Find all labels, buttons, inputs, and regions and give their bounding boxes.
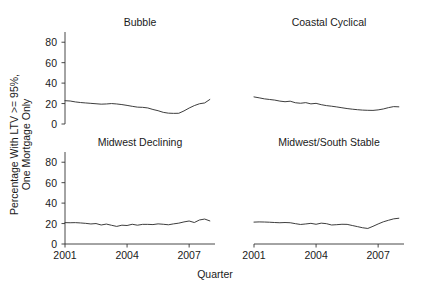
data-series-line xyxy=(65,99,210,113)
plot-area xyxy=(254,32,404,124)
y-tick-label: 60 xyxy=(25,178,57,189)
y-tick-label: 20 xyxy=(25,99,57,110)
y-tick-label: 80 xyxy=(25,37,57,48)
x-tick-label: 2007 xyxy=(358,250,398,261)
x-tick-label: 2007 xyxy=(169,250,209,261)
plot-area xyxy=(65,152,215,244)
panel-title: Midwest Declining xyxy=(65,136,215,148)
x-axis-label: Quarter xyxy=(0,268,430,280)
x-tick-label: 2001 xyxy=(234,250,274,261)
plot-area xyxy=(65,32,215,124)
data-series-line xyxy=(65,219,210,226)
panel-title: Bubble xyxy=(65,16,215,28)
y-tick-label: 60 xyxy=(25,58,57,69)
x-tick-label: 2001 xyxy=(45,250,85,261)
panel-coastal-cyclical: Coastal Cyclical xyxy=(254,16,404,124)
plot-area xyxy=(254,152,404,244)
data-series-line xyxy=(254,97,399,110)
x-tick-label: 2004 xyxy=(107,250,147,261)
panel-title: Midwest/South Stable xyxy=(254,136,404,148)
y-tick-label: 0 xyxy=(25,119,57,130)
x-tick-label: 2004 xyxy=(296,250,336,261)
chart-figure: Percentage With LTV >= 95%, One Mortgage… xyxy=(0,0,430,289)
y-tick-label: 0 xyxy=(25,239,57,250)
y-tick-label: 80 xyxy=(25,157,57,168)
y-tick-label: 40 xyxy=(25,198,57,209)
panel-midwest-south-stable: Midwest/South Stable xyxy=(254,136,404,244)
data-series-line xyxy=(254,218,399,228)
y-tick-label: 40 xyxy=(25,78,57,89)
y-tick-label: 20 xyxy=(25,219,57,230)
panel-bubble: Bubble xyxy=(65,16,215,124)
panel-midwest-declining: Midwest Declining xyxy=(65,136,215,244)
panel-title: Coastal Cyclical xyxy=(254,16,404,28)
